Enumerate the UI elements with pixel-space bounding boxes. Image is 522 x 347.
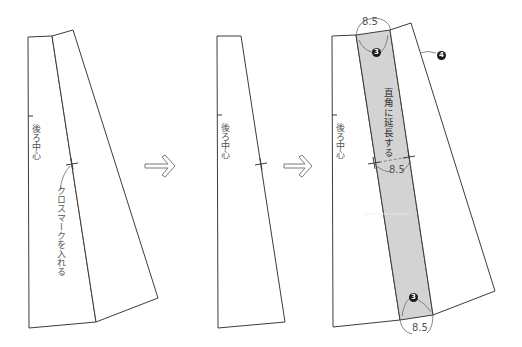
panel-3 xyxy=(332,18,495,334)
panel-2-center-back-label: 後ろ中心 xyxy=(220,123,229,159)
panel-2 xyxy=(217,36,285,328)
panel-1-center-back-label: 後ろ中心 xyxy=(31,124,40,160)
bottom-width-label: 8.5 xyxy=(412,322,428,333)
marker-3-bottom-badge: 3 xyxy=(409,293,418,302)
side-marker-leader xyxy=(420,52,436,54)
panel-1-instruction-label: クロスマークを入れる xyxy=(56,186,65,276)
band-instruction-label: 直角に延長する xyxy=(383,88,393,158)
next-step-arrow-icon xyxy=(145,155,175,177)
next-step-arrow-icon xyxy=(284,155,312,177)
panel-3-center-back-label: 後ろ中心 xyxy=(335,123,344,159)
panel-2-piece xyxy=(217,36,285,328)
panel-1 xyxy=(28,30,158,328)
bottom-dimension-arc-left xyxy=(400,320,412,334)
marker-4-badge: 4 xyxy=(437,51,446,60)
marker-3-top-badge: 3 xyxy=(372,48,381,57)
top-width-label: 8.5 xyxy=(362,16,378,27)
middle-width-label: 8.5 xyxy=(389,164,405,175)
